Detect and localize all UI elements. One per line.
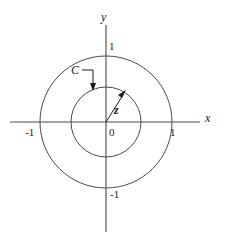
x-axis-label: x bbox=[205, 112, 210, 124]
x-tick-positive-one: 1 bbox=[170, 127, 176, 138]
y-axis-label: y bbox=[101, 11, 106, 23]
contour-leader-line bbox=[82, 70, 93, 85]
diagram-canvas bbox=[0, 0, 226, 241]
contour-leader-arrowhead bbox=[90, 83, 96, 91]
complex-plane-figure: y x 1 -1 1 -1 0 z C bbox=[0, 0, 226, 241]
y-tick-negative-one: -1 bbox=[110, 189, 119, 200]
origin-label: 0 bbox=[109, 127, 115, 138]
y-tick-positive-one: 1 bbox=[109, 41, 115, 52]
z-vector-label: z bbox=[114, 104, 119, 116]
contour-c-label: C bbox=[71, 64, 79, 76]
x-tick-negative-one: -1 bbox=[25, 127, 34, 138]
